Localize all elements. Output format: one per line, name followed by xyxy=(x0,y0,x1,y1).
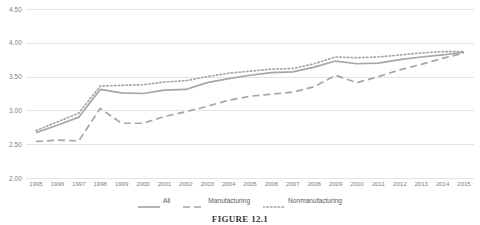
x-axis-tick-label: 2006 xyxy=(260,180,282,188)
legend-item-all[interactable]: All xyxy=(138,197,170,205)
x-axis-tick-label: 2009 xyxy=(325,180,347,188)
chart-plot-area xyxy=(26,0,474,180)
x-axis-tick-label: 2011 xyxy=(367,180,389,188)
legend-swatch-icon xyxy=(263,197,285,205)
chart-legend: AllManufacturingNonmanufacturing xyxy=(0,194,480,208)
y-axis-tick-label: 2.00 xyxy=(0,175,22,182)
x-axis-tick-label: 2000 xyxy=(132,180,154,188)
x-axis-tick-label: 2003 xyxy=(196,180,218,188)
legend-swatch-icon xyxy=(138,197,160,205)
y-axis-tick-label: 4.50 xyxy=(0,6,22,13)
x-axis-tick-label: 2004 xyxy=(218,180,240,188)
x-axis-tick-label: 2015 xyxy=(453,180,475,188)
legend-label: Manufacturing xyxy=(208,197,250,205)
x-axis-tick-label: 2014 xyxy=(432,180,454,188)
chart-x-axis: 1995199619971998199920002001200220032004… xyxy=(26,180,474,190)
series-line-nonmanufacturing xyxy=(36,52,464,131)
y-axis-tick-label: 3.00 xyxy=(0,107,22,114)
figure-number: FIGURE 12.1 xyxy=(212,214,268,224)
x-axis-tick-label: 1996 xyxy=(46,180,68,188)
figure-container: 4.504.003.503.002.502.00 199519961997199… xyxy=(0,0,480,225)
legend-item-nonmanufacturing[interactable]: Nonmanufacturing xyxy=(263,197,342,205)
y-axis-tick-label: 3.50 xyxy=(0,73,22,80)
x-axis-tick-label: 1998 xyxy=(89,180,111,188)
legend-item-manufacturing[interactable]: Manufacturing xyxy=(183,197,250,205)
x-axis-tick-label: 2010 xyxy=(346,180,368,188)
series-line-manufacturing xyxy=(36,53,464,142)
chart-series-layer xyxy=(26,0,474,180)
x-axis-tick-label: 1997 xyxy=(68,180,90,188)
y-axis-tick-label: 2.50 xyxy=(0,141,22,148)
x-axis-tick-label: 2012 xyxy=(389,180,411,188)
legend-label: All xyxy=(163,197,170,205)
y-axis-tick-label: 4.00 xyxy=(0,39,22,46)
legend-swatch-icon xyxy=(183,197,205,205)
figure-caption: FIGURE 12.1 xyxy=(0,214,480,225)
x-axis-tick-label: 1995 xyxy=(25,180,47,188)
x-axis-tick-label: 2005 xyxy=(239,180,261,188)
x-axis-tick-label: 2007 xyxy=(282,180,304,188)
x-axis-tick-label: 2001 xyxy=(153,180,175,188)
x-axis-tick-label: 2008 xyxy=(303,180,325,188)
series-line-all xyxy=(36,52,464,132)
x-axis-tick-label: 1999 xyxy=(111,180,133,188)
x-axis-tick-label: 2013 xyxy=(410,180,432,188)
x-axis-tick-label: 2002 xyxy=(175,180,197,188)
legend-label: Nonmanufacturing xyxy=(288,197,342,205)
